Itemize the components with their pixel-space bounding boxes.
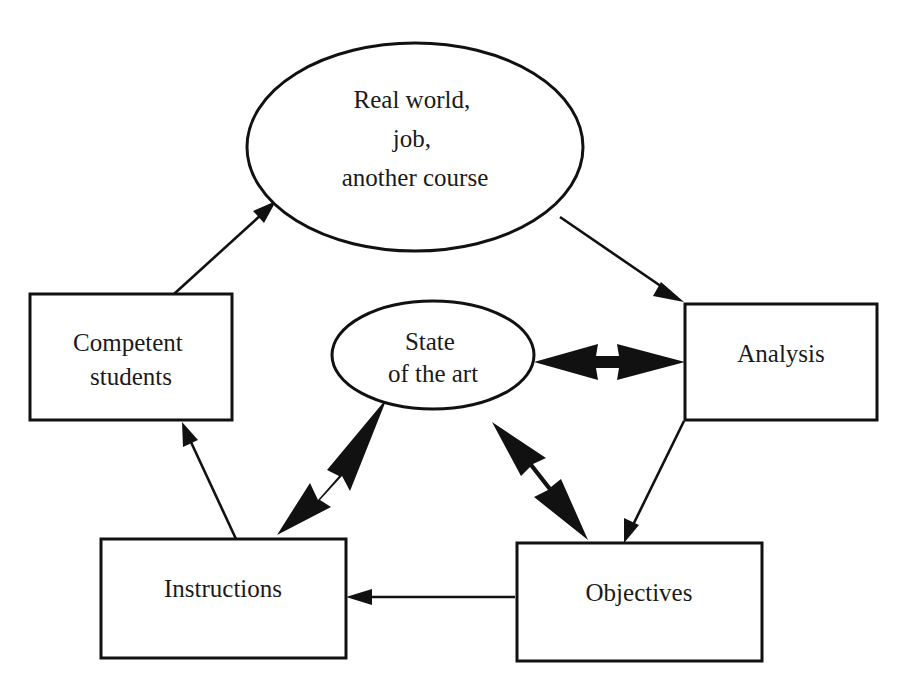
competent-line-1: Competent [73,329,183,356]
arrow-analysis-to-objectives [624,421,684,543]
real-world-line-1: Real world, [354,86,471,113]
instructional-cycle-diagram: Real world, job, another course State of… [0,0,901,688]
state-line-1: State [405,328,455,355]
instructions-label: Instructions [164,575,282,602]
arrow-competent-to-realworld [174,201,276,294]
arrow-objectives-to-instructions [346,589,515,605]
double-arrow-state-objectives [492,422,588,540]
node-instructions: Instructions [101,539,346,658]
real-world-line-2: job, [392,125,431,152]
analysis-label: Analysis [737,340,825,367]
arrow-instructions-to-competent [182,422,236,539]
node-competent-students: Competent students [30,294,232,420]
node-real-world: Real world, job, another course [247,43,583,251]
node-objectives: Objectives [517,543,762,661]
double-arrow-state-instructions [277,398,387,535]
state-line-2: of the art [388,360,478,387]
node-state-of-the-art: State of the art [332,301,534,409]
objectives-label: Objectives [586,579,693,606]
real-world-line-3: another course [342,164,488,191]
double-arrow-state-analysis [534,344,685,380]
competent-line-2: students [90,363,172,390]
node-analysis: Analysis [685,304,877,420]
arrow-realworld-to-analysis [560,217,684,302]
